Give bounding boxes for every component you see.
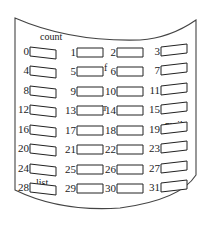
slot-index: 15 (149, 103, 161, 115)
slot-box (30, 125, 56, 137)
slot-box (30, 66, 56, 78)
slot-box (77, 126, 103, 135)
slot-index: 24 (18, 162, 30, 174)
slot-index: 13 (65, 104, 77, 116)
slot-index: 30 (105, 182, 117, 194)
label-count: count (40, 31, 62, 42)
slot-index: 17 (65, 124, 77, 136)
slot-box (161, 44, 187, 56)
slot-index: 5 (71, 65, 77, 77)
slot-index: 31 (149, 181, 160, 193)
slot-box (30, 86, 56, 98)
slot-box (117, 48, 143, 57)
slot-index: 18 (105, 124, 117, 136)
slot-box (77, 145, 103, 154)
slot-index: 12 (18, 103, 29, 115)
slot-index: 14 (105, 104, 117, 116)
slot-box (117, 126, 143, 135)
slot-index: 10 (105, 85, 117, 97)
slot-box (117, 165, 143, 174)
slot-box (30, 47, 56, 59)
slot-index: 28 (18, 181, 30, 193)
slot-index: 0 (24, 45, 30, 57)
slot-box (30, 164, 56, 176)
slot-box (77, 87, 103, 96)
slot-box (161, 83, 187, 95)
slot-index: 25 (65, 163, 77, 175)
slot-index: 2 (111, 46, 117, 58)
slot-index: 23 (149, 142, 161, 154)
slot-box (77, 48, 103, 57)
slot-box (117, 67, 143, 76)
slot-index: 20 (18, 142, 30, 154)
slot-index: 19 (149, 123, 161, 135)
slot-index: 3 (155, 45, 161, 57)
slot-box (161, 141, 187, 153)
slot-index: 22 (105, 143, 116, 155)
slot-box (161, 180, 187, 192)
slot-index: 8 (24, 84, 30, 96)
slot-index: 1 (71, 46, 77, 58)
slot-box (117, 87, 143, 96)
slot-box (161, 102, 187, 114)
slot-index: 26 (105, 163, 117, 175)
slot-box (30, 105, 56, 117)
slot-array-diagram: count f tr mail list 0123456789101112131… (0, 0, 212, 236)
slot-box (117, 106, 143, 115)
slot-index: 6 (111, 65, 117, 77)
label-f: f (104, 62, 108, 73)
slot-index: 27 (149, 162, 161, 174)
slot-box (77, 67, 103, 76)
slot-index: 9 (71, 85, 77, 97)
slot-box (77, 184, 103, 193)
slot-box (161, 63, 187, 75)
slot-box (117, 184, 143, 193)
slot-index: 11 (149, 84, 160, 96)
slot-index: 7 (155, 64, 161, 76)
slot-box (30, 144, 56, 156)
slot-index: 29 (65, 182, 77, 194)
slot-box (117, 145, 143, 154)
slot-box (30, 183, 56, 195)
slot-index: 4 (24, 64, 30, 76)
slot-index: 16 (18, 123, 30, 135)
slot-box (161, 161, 187, 173)
slot-index: 21 (65, 143, 76, 155)
slot-box (77, 165, 103, 174)
slot-box (77, 106, 103, 115)
